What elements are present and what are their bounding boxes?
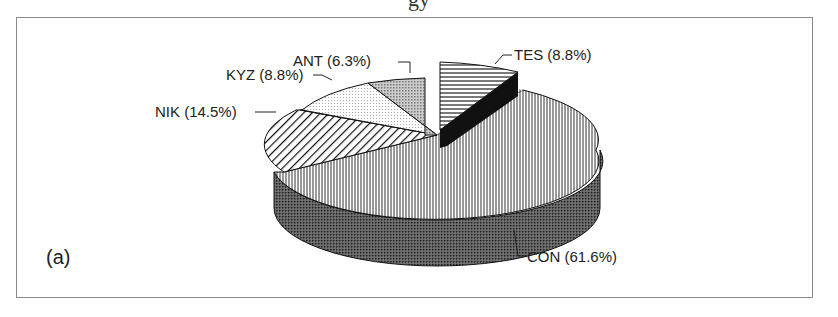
panel-label: (a) [46,246,70,269]
pie-chart: TES (8.8%) CON (61.6%) NIK (14.5%) KYZ (… [0,0,838,317]
label-nik: NIK (14.5%) [155,103,237,120]
label-tes: TES (8.8%) [514,46,592,63]
label-ant: ANT (6.3%) [293,52,371,69]
label-con: CON (61.6%) [527,248,617,265]
label-kyz: KYZ (8.8%) [226,66,304,83]
